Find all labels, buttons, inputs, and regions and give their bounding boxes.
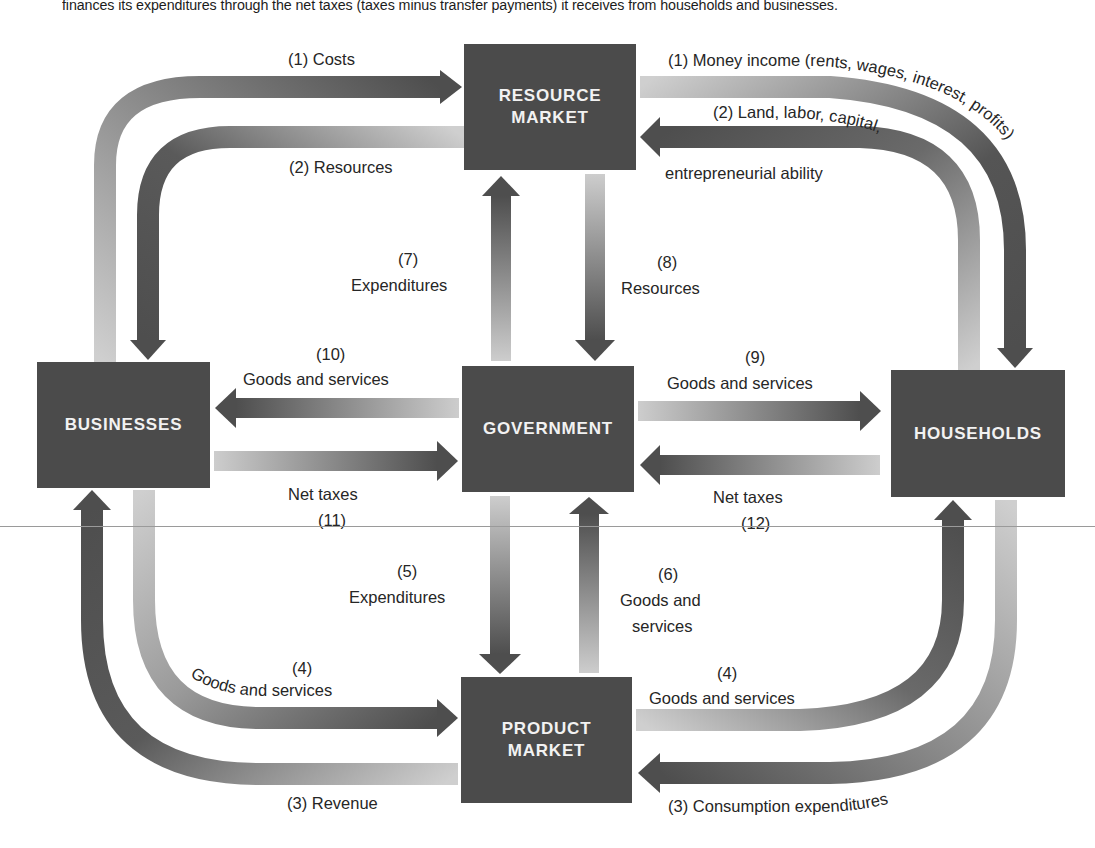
label-expenditures-7: Expenditures [351,274,447,296]
arrowhead-money-income [997,348,1033,368]
label-resources-2: (2) Resources [289,156,393,178]
label-goods-4-right-num: (4) [717,662,737,684]
arrowhead-land-labor [640,117,660,157]
arrow-net-taxes-11 [214,451,437,471]
label-goods-9-num: (9) [745,346,765,368]
label-costs: (1) Costs [288,48,355,70]
page-divider-line [0,526,1095,527]
label-net-taxes-12: Net taxes [713,486,783,508]
businesses-box: BUSINESSES [37,362,210,488]
label-goods-9: Goods and services [667,372,813,394]
arrowhead-goods-9 [860,391,881,431]
arrowhead-expenditures-5 [479,654,521,674]
label-expenditures-5: Expenditures [349,586,445,608]
arrowhead-resources-8 [575,340,615,361]
arrow-goods-6 [579,514,599,673]
arrow-goods-9 [638,401,860,421]
arrowhead-costs [440,70,462,104]
label-goods-6-line2: services [632,615,693,637]
label-goods-10-num: (10) [316,343,345,365]
arrowhead-goods-6 [569,497,609,514]
product-market-box: PRODUCT MARKET [461,677,632,803]
arrow-resources-8 [585,174,605,340]
label-net-taxes-11: Net taxes [288,483,358,505]
arrowhead-goods-4-left [437,699,458,737]
arrowhead-net-taxes-11 [437,441,458,481]
arrow-expenditures-7 [491,196,511,361]
label-resources-8-num: (8) [657,251,677,273]
households-box: HOUSEHOLDS [891,370,1065,497]
arrowhead-revenue [73,490,111,510]
label-land-labor-line2: entrepreneurial ability [665,162,823,184]
label-consumption: (3) Consumption expenditures [668,789,890,815]
resource-market-box: RESOURCE MARKET [464,44,636,170]
arrow-expenditures-5 [490,496,510,654]
label-net-taxes-12-num: (12) [741,512,770,534]
arrowhead-goods-10 [215,388,236,428]
government-box: GOVERNMENT [462,366,634,492]
label-expenditures-7-num: (7) [398,248,418,270]
arrowhead-goods-4-right [934,500,972,520]
label-goods-4-left-num: (4) [292,657,312,679]
label-resources-8: Resources [621,277,700,299]
label-net-taxes-11-num: (11) [318,509,346,531]
label-goods-6-line1: Goods and [620,589,701,611]
label-goods-10: Goods and services [243,368,389,390]
arrowhead-resources [130,340,166,360]
label-goods-4-right: Goods and services [649,687,795,709]
arrow-goods-10 [236,398,459,418]
arrowhead-consumption [638,753,660,793]
arrowhead-net-taxes-12 [640,445,660,485]
arrow-net-taxes-12 [660,455,880,475]
label-expenditures-5-num: (5) [397,560,417,582]
label-goods-6-num: (6) [658,563,678,585]
arrowhead-expenditures-7 [482,176,520,196]
label-revenue: (3) Revenue [287,792,378,814]
